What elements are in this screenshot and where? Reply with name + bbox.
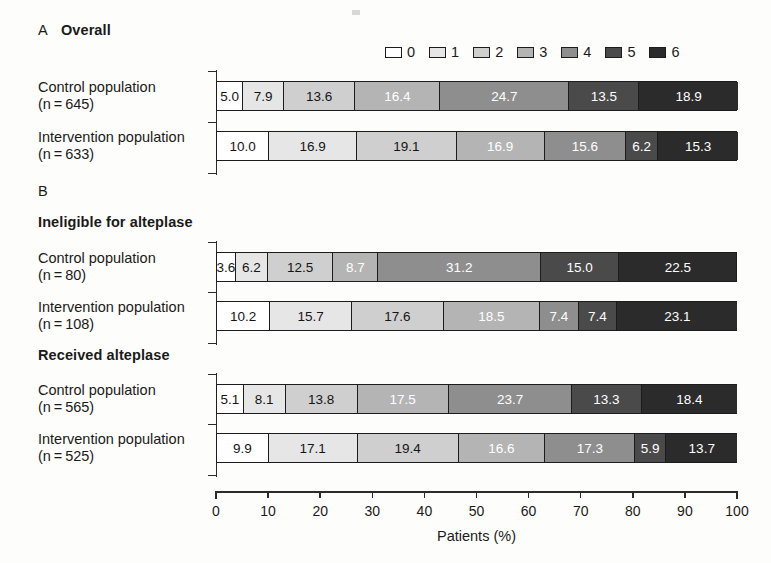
x-axis-tick (528, 491, 530, 498)
bar-segment-4[interactable]: 7.4 (540, 302, 579, 330)
x-axis-tick (632, 491, 634, 498)
bar-segment-6[interactable]: 13.7 (666, 434, 737, 462)
panel-b-letter: B (38, 183, 48, 199)
row-label-n: (n = 565) (38, 399, 156, 416)
bar-segment-3[interactable]: 18.5 (444, 302, 540, 330)
legend-label: 2 (495, 45, 503, 60)
bar-segment-0[interactable]: 9.9 (217, 434, 269, 462)
bar-segment-2[interactable]: 12.5 (268, 253, 333, 281)
bar-segment-5[interactable]: 15.0 (541, 253, 619, 281)
bar-segment-1[interactable]: 7.9 (243, 82, 284, 110)
bar-segment-5[interactable]: 6.2 (626, 132, 658, 160)
scan-artifact (352, 10, 360, 15)
bar-segment-4[interactable]: 17.3 (545, 434, 635, 462)
bar-segment-1[interactable]: 8.1 (244, 385, 286, 413)
x-axis-tick (319, 491, 321, 498)
legend-swatch-icon (605, 47, 622, 58)
bar-segment-2[interactable]: 19.1 (357, 132, 457, 160)
figure-canvas: A Overall 0123456 B Ineligible for altep… (0, 0, 771, 563)
bar-segment-0[interactable]: 10.0 (217, 132, 269, 160)
x-axis-tick (580, 491, 582, 498)
bar-segment-6[interactable]: 23.1 (617, 302, 737, 330)
bar-segment-2[interactable]: 19.4 (358, 434, 459, 462)
bar-segment-6[interactable]: 22.5 (619, 253, 736, 281)
legend-label: 1 (451, 45, 459, 60)
bar-segment-2[interactable]: 13.8 (286, 385, 358, 413)
bar-segment-1[interactable]: 16.9 (269, 132, 357, 160)
bar-segment-5[interactable]: 7.4 (579, 302, 618, 330)
legend-label: 5 (627, 45, 635, 60)
row-label: Intervention population(n = 633) (38, 129, 185, 163)
bar-segment-0[interactable]: 3.6 (217, 253, 236, 281)
bar-segment-6[interactable]: 18.4 (642, 385, 738, 413)
legend-label: 3 (539, 45, 547, 60)
bar-segment-5[interactable]: 13.3 (572, 385, 641, 413)
legend-item-4[interactable]: 4 (561, 45, 591, 60)
bar-segment-5[interactable]: 13.5 (569, 82, 639, 110)
x-axis-tick-label: 50 (469, 503, 485, 519)
x-axis-tick (736, 491, 738, 499)
row-label: Control population(n = 565) (38, 382, 156, 416)
bracket-tick (208, 475, 217, 476)
panel-a-letter: A (38, 22, 48, 38)
bar-segment-4[interactable]: 23.7 (449, 385, 572, 413)
legend-swatch-icon (385, 47, 402, 58)
bar-segment-3[interactable]: 16.9 (457, 132, 545, 160)
panel-a-title: Overall (61, 22, 111, 38)
stacked-bar[interactable]: 10.016.919.116.915.66.215.3 (216, 131, 737, 161)
legend-item-2[interactable]: 2 (473, 45, 503, 60)
legend-item-3[interactable]: 3 (517, 45, 547, 60)
row-label-n: (n = 525) (38, 448, 185, 465)
bar-segment-2[interactable]: 17.6 (352, 302, 444, 330)
bar-segment-3[interactable]: 8.7 (333, 253, 378, 281)
bar-segment-0[interactable]: 5.1 (217, 385, 244, 413)
bar-segment-4[interactable]: 15.6 (545, 132, 626, 160)
stacked-bar[interactable]: 5.07.913.616.424.713.518.9 (216, 81, 737, 111)
bar-segment-4[interactable]: 31.2 (378, 253, 541, 281)
row-label-population: Intervention population (38, 129, 185, 145)
legend-item-6[interactable]: 6 (649, 45, 679, 60)
x-axis-tick-label: 80 (625, 503, 641, 519)
legend-swatch-icon (429, 47, 446, 58)
bar-segment-1[interactable]: 15.7 (270, 302, 352, 330)
bar-segment-4[interactable]: 24.7 (440, 82, 569, 110)
bar-segment-6[interactable]: 18.9 (639, 82, 737, 110)
bar-segment-0[interactable]: 5.0 (217, 82, 243, 110)
row-label-population: Control population (38, 382, 156, 398)
legend-item-5[interactable]: 5 (605, 45, 635, 60)
stacked-bar[interactable]: 10.215.717.618.57.47.423.1 (216, 301, 737, 331)
legend-swatch-icon (649, 47, 666, 58)
row-label: Intervention population(n = 108) (38, 299, 185, 333)
x-axis-tick-label: 0 (212, 503, 220, 519)
bar-segment-5[interactable]: 5.9 (635, 434, 666, 462)
bar-segment-3[interactable]: 16.4 (355, 82, 440, 110)
legend-item-0[interactable]: 0 (385, 45, 415, 60)
stacked-bar[interactable]: 3.66.212.58.731.215.022.5 (216, 252, 737, 282)
legend-label: 4 (583, 45, 591, 60)
bracket-tick (208, 122, 217, 123)
x-axis-tick-label: 20 (312, 503, 328, 519)
bar-segment-3[interactable]: 16.6 (459, 434, 545, 462)
x-axis-tick-label: 70 (573, 503, 589, 519)
x-axis-tick-label: 10 (260, 503, 276, 519)
x-axis-tick (215, 491, 217, 499)
bar-segment-2[interactable]: 13.6 (284, 82, 355, 110)
row-label-n: (n = 645) (38, 96, 156, 113)
x-axis-title: Patients (%) (216, 528, 737, 544)
bracket-tick (208, 71, 217, 72)
legend-swatch-icon (473, 47, 490, 58)
bar-segment-1[interactable]: 17.1 (269, 434, 358, 462)
stacked-bar[interactable]: 9.917.119.416.617.35.913.7 (216, 433, 737, 463)
row-label: Control population(n = 645) (38, 79, 156, 113)
bar-segment-1[interactable]: 6.2 (236, 253, 268, 281)
bar-segment-3[interactable]: 17.5 (358, 385, 449, 413)
legend-swatch-icon (517, 47, 534, 58)
legend-item-1[interactable]: 1 (429, 45, 459, 60)
legend-label: 6 (671, 45, 679, 60)
bar-segment-6[interactable]: 15.3 (658, 132, 738, 160)
bar-segment-0[interactable]: 10.2 (217, 302, 270, 330)
stacked-bar[interactable]: 5.18.113.817.523.713.318.4 (216, 384, 737, 414)
panel-a-heading: A Overall (38, 22, 111, 38)
x-axis-tick (372, 491, 374, 498)
panel-b-subtitle-received: Received alteplase (38, 347, 170, 363)
